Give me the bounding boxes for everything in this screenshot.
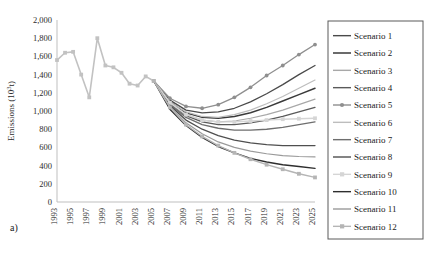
x-tick-label: 2025	[307, 208, 317, 225]
history-marker	[120, 71, 124, 75]
legend-label-8[interactable]: Scenario 8	[354, 152, 393, 162]
x-tick-label: 2013	[210, 208, 220, 225]
x-tick-label: 2007	[162, 208, 172, 225]
y-tick-label: 1,800	[33, 33, 52, 43]
y-tick-label: 600	[39, 142, 52, 152]
legend-marker-9	[340, 172, 344, 176]
legend-label-3[interactable]: Scenario 3	[354, 66, 393, 76]
legend-label-12[interactable]: Scenario 12	[354, 222, 397, 232]
x-tick-label: 2021	[275, 208, 285, 225]
legend-marker-5	[340, 103, 344, 107]
y-tick-label: 800	[39, 124, 52, 134]
series-marker-12	[200, 135, 204, 139]
x-tick-label: 2015	[226, 208, 236, 225]
y-tick-label: 1,000	[33, 106, 52, 116]
x-tick-label: 2011	[194, 208, 204, 225]
y-tick-label: 200	[39, 179, 52, 189]
series-marker-5	[200, 106, 204, 110]
x-tick-label: 2005	[146, 208, 156, 225]
history-marker	[136, 84, 140, 88]
series-marker-5	[216, 103, 220, 107]
history-marker	[103, 64, 107, 68]
y-axis-title: Emissions (103t)	[5, 81, 17, 141]
history-marker	[71, 50, 75, 54]
history-marker	[63, 51, 67, 55]
legend-label-10[interactable]: Scenario 10	[354, 187, 397, 197]
series-marker-9	[265, 118, 269, 122]
emissions-line-chart: 02004006008001,0001,2001,4001,6001,8002,…	[0, 0, 425, 258]
series-marker-5	[297, 53, 301, 57]
y-tick-label: 2,000	[33, 15, 52, 25]
legend-label-5[interactable]: Scenario 5	[354, 100, 393, 110]
history-marker	[144, 75, 148, 79]
series-marker-9	[184, 113, 188, 117]
figure-panel: 02004006008001,0001,2001,4001,6001,8002,…	[0, 0, 425, 258]
series-marker-12	[184, 123, 188, 127]
history-marker	[112, 65, 116, 69]
y-tick-label: 1,600	[33, 51, 52, 61]
legend-label-1[interactable]: Scenario 1	[354, 31, 392, 41]
legend-label-4[interactable]: Scenario 4	[354, 83, 393, 93]
x-tick-label: 2009	[178, 208, 188, 225]
history-marker	[95, 36, 99, 40]
history-marker	[55, 58, 59, 62]
series-marker-12	[232, 151, 236, 155]
history-marker	[128, 82, 132, 86]
y-tick-label: 1,200	[33, 88, 52, 98]
series-marker-5	[184, 105, 188, 109]
series-marker-12	[216, 144, 220, 148]
series-marker-12	[281, 167, 285, 171]
history-marker	[87, 95, 91, 99]
legend-label-11[interactable]: Scenario 11	[354, 204, 396, 214]
history-marker	[79, 73, 83, 77]
series-marker-9	[249, 119, 253, 123]
y-tick-label: 400	[39, 161, 52, 171]
x-tick-label: 2019	[259, 208, 269, 225]
legend-label-9[interactable]: Scenario 9	[354, 170, 393, 180]
legend-label-7[interactable]: Scenario 7	[354, 135, 393, 145]
series-marker-9	[281, 117, 285, 121]
panel-label: a)	[10, 222, 18, 233]
series-line-12	[154, 81, 315, 177]
series-marker-9	[313, 116, 317, 120]
series-line-1	[154, 66, 315, 113]
x-tick-label: 1995	[65, 208, 75, 225]
series-marker-12	[152, 79, 156, 83]
series-marker-12	[265, 163, 269, 167]
x-tick-label: 1999	[97, 208, 107, 225]
y-tick-label: 1,400	[33, 70, 52, 80]
x-tick-label: 1993	[49, 208, 59, 225]
series-marker-9	[200, 118, 204, 122]
series-line-8	[154, 81, 315, 146]
x-tick-label: 1997	[81, 208, 91, 225]
legend-label-6[interactable]: Scenario 6	[354, 118, 393, 128]
series-marker-12	[249, 157, 253, 161]
y-tick-label: 0	[48, 197, 52, 207]
series-marker-9	[232, 120, 236, 124]
series-marker-12	[297, 172, 301, 176]
x-tick-label: 2003	[130, 208, 140, 225]
x-tick-label: 2023	[291, 208, 301, 225]
series-marker-5	[265, 74, 269, 78]
series-marker-12	[313, 176, 317, 180]
series-marker-9	[297, 117, 301, 121]
history-line	[57, 38, 154, 97]
series-marker-5	[281, 64, 285, 68]
legend-label-2[interactable]: Scenario 2	[354, 48, 392, 58]
legend-marker-12	[340, 224, 344, 228]
series-marker-12	[168, 105, 172, 109]
series-marker-5	[232, 95, 236, 99]
series-marker-5	[313, 43, 317, 47]
x-tick-label: 2017	[243, 208, 253, 225]
x-tick-label: 2001	[114, 208, 124, 225]
series-marker-5	[249, 85, 253, 89]
series-marker-9	[216, 120, 220, 124]
